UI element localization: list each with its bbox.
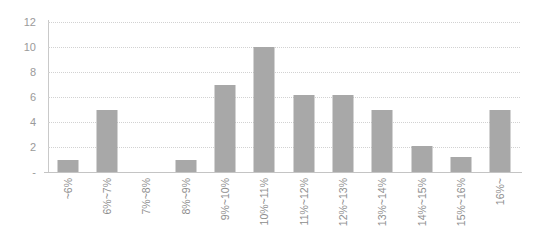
bar[interactable] — [96, 110, 117, 173]
x-axis-tick: 9%~10% — [205, 176, 244, 235]
bar[interactable] — [490, 110, 511, 173]
bar-slot — [87, 22, 126, 172]
x-axis: ~6%6%~7%7%~8%8%~9%9%~10%10%~11%11%~12%12… — [48, 176, 520, 235]
bar[interactable] — [450, 157, 471, 172]
bar[interactable] — [175, 160, 196, 173]
y-axis-tick-label: - — [32, 167, 36, 178]
bar[interactable] — [214, 85, 235, 173]
bars-layer — [48, 22, 520, 172]
x-axis-tick-label: 9%~10% — [220, 178, 231, 220]
bar[interactable] — [293, 95, 314, 173]
y-axis-tick-label: 10 — [24, 42, 36, 53]
x-axis-tick-label: 7%~8% — [141, 178, 152, 214]
bar-slot — [363, 22, 402, 172]
bar-slot — [402, 22, 441, 172]
bar-slot — [481, 22, 520, 172]
bar[interactable] — [411, 146, 432, 172]
x-axis-tick-label: 15%~16% — [456, 178, 467, 226]
x-axis-tick: 12%~13% — [323, 176, 362, 235]
bar-slot — [127, 22, 166, 172]
x-axis-tick-label: 12%~13% — [338, 178, 349, 226]
x-axis-tick: 8%~9% — [166, 176, 205, 235]
x-axis-tick: 7%~8% — [127, 176, 166, 235]
x-axis-tick-label: 14%~15% — [416, 178, 427, 226]
x-axis-tick: 14%~15% — [402, 176, 441, 235]
bar[interactable] — [372, 110, 393, 173]
x-axis-tick-label: ~6% — [62, 178, 73, 199]
x-axis-tick: ~6% — [48, 176, 87, 235]
x-axis-tick: 15%~16% — [441, 176, 480, 235]
x-axis-tick: 11%~12% — [284, 176, 323, 235]
x-axis-tick-label: 6%~7% — [102, 178, 113, 214]
bar-slot — [205, 22, 244, 172]
bar[interactable] — [254, 47, 275, 172]
x-axis-tick: 6%~7% — [87, 176, 126, 235]
y-axis-tick-label: 8 — [30, 67, 36, 78]
y-axis-tick-label: 12 — [24, 17, 36, 28]
x-axis-tick: 16%~ — [481, 176, 520, 235]
y-axis-tick-label: 6 — [30, 92, 36, 103]
x-axis-tick-label: 13%~14% — [377, 178, 388, 226]
x-axis-tick-label: 8%~9% — [180, 178, 191, 214]
x-axis-tick-label: 16%~ — [495, 178, 506, 205]
y-axis: 12108642- — [0, 0, 44, 235]
x-axis-tick-label: 11%~12% — [298, 178, 309, 225]
bar-slot — [441, 22, 480, 172]
bar[interactable] — [332, 95, 353, 173]
x-axis-tick-label: 10%~11% — [259, 178, 270, 225]
y-axis-tick-label: 2 — [30, 142, 36, 153]
x-axis-tick: 10%~11% — [245, 176, 284, 235]
bar-slot — [245, 22, 284, 172]
bar[interactable] — [57, 160, 78, 173]
x-axis-line — [44, 172, 522, 173]
bar-slot — [48, 22, 87, 172]
bar-slot — [166, 22, 205, 172]
x-axis-tick: 13%~14% — [363, 176, 402, 235]
y-axis-tick-label: 4 — [30, 117, 36, 128]
bar-slot — [323, 22, 362, 172]
bar-slot — [284, 22, 323, 172]
bar-chart: 12108642- ~6%6%~7%7%~8%8%~9%9%~10%10%~11… — [0, 0, 551, 235]
